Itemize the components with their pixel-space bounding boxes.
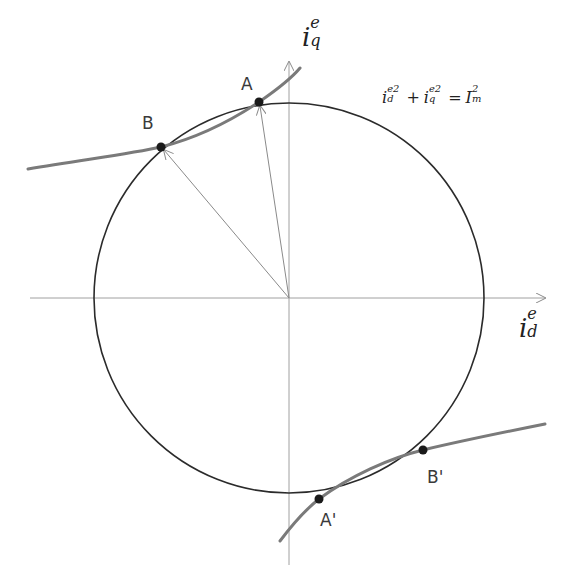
torque-curve-upper bbox=[28, 68, 300, 169]
label-point-A: A bbox=[241, 74, 253, 94]
d-axis-label: ied bbox=[519, 313, 544, 343]
d-axis-label-base: i bbox=[519, 313, 527, 343]
q-axis-label-sub: q bbox=[310, 31, 320, 50]
label-point-A-prime: A' bbox=[320, 510, 336, 530]
point-A-prime bbox=[315, 495, 324, 504]
eq-equals: = bbox=[448, 88, 461, 107]
eq-id-sub: d bbox=[387, 93, 393, 104]
d-axis-label-sub: d bbox=[527, 322, 537, 341]
q-axis-label-sup: e bbox=[310, 13, 320, 32]
label-point-B: B bbox=[142, 113, 154, 133]
d-axis-label-sup: e bbox=[527, 304, 537, 323]
eq-id-sup: e2 bbox=[387, 83, 399, 94]
point-B bbox=[157, 143, 166, 152]
circle-equation: ie2d +ie2q =I2m bbox=[382, 88, 482, 107]
eq-iq-sup: e2 bbox=[429, 83, 441, 94]
dq-current-diagram bbox=[0, 0, 576, 587]
point-B-prime bbox=[419, 446, 428, 455]
eq-Im-sup: 2 bbox=[472, 83, 478, 94]
eq-Im-sub: m bbox=[472, 93, 481, 104]
point-A bbox=[255, 98, 264, 107]
q-axis-label-base: i bbox=[302, 22, 310, 52]
label-point-B-prime: B' bbox=[427, 467, 443, 487]
eq-iq-sub: q bbox=[429, 93, 435, 104]
q-axis-label: ieq bbox=[302, 22, 327, 52]
eq-plus: + bbox=[406, 88, 419, 107]
